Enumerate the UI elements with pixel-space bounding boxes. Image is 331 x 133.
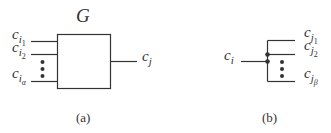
gate-box [58,35,111,89]
gate-title: G [76,5,90,26]
caption-a: (a) [76,110,90,125]
fanout-input-label: ci [224,47,234,66]
ellipsis-dot [280,67,284,71]
ellipsis-dot [41,67,45,71]
ellipsis-dot [41,60,45,64]
fanout-output-label-beta: cjβ [304,65,318,87]
input-label-alpha: ciα [12,65,27,87]
junction-dot [265,52,270,57]
junction-dot [265,59,270,64]
caption-b: (b) [262,110,277,125]
figure-b: ci cj1 cj2 cjβ (b) [224,24,318,125]
ellipsis-dot [41,74,45,78]
ellipsis-dot [280,74,284,78]
ellipsis-dot [280,60,284,64]
figure-a: G ci1 ci2 ciα cj (a) [12,5,152,125]
diagram: G ci1 ci2 ciα cj (a) ci cj1 cj2 cjβ (b) [0,0,331,133]
output-label: cj [142,48,152,67]
